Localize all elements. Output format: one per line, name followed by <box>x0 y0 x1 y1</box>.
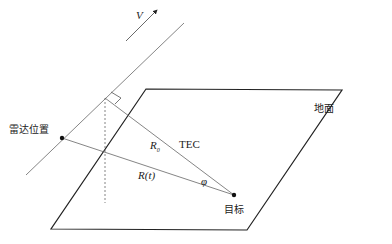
rt-line <box>62 138 234 195</box>
ground-plane <box>51 89 342 230</box>
angle-phi-label: φ <box>201 176 207 187</box>
r0-label: R0 <box>150 140 160 153</box>
rt-label: R(t) <box>138 170 155 181</box>
radar-position-dot <box>60 136 64 140</box>
target-label: 目标 <box>224 205 244 215</box>
r0-line <box>105 98 234 195</box>
r0-label-subscript: 0 <box>157 147 160 153</box>
radar-position-label: 雷达位置 <box>9 125 49 135</box>
tec-label: TEC <box>179 139 200 150</box>
ground-label: 地面 <box>314 104 334 114</box>
right-angle-marker <box>111 92 121 104</box>
r0-label-main: R <box>150 139 157 151</box>
target-dot <box>232 193 236 197</box>
velocity-label: V <box>136 10 143 21</box>
radar-geometry-diagram <box>0 0 392 244</box>
